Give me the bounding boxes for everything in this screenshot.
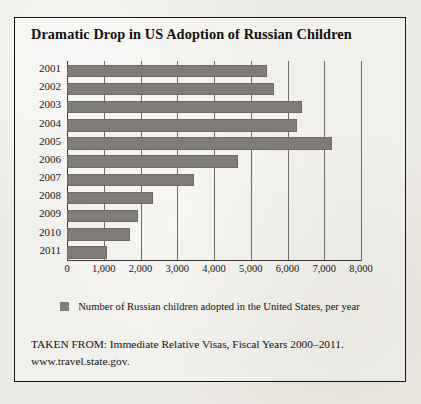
x-tick-label: 8,000 — [349, 263, 373, 274]
y-axis-label-2003: 2003 — [39, 98, 61, 110]
bar-row: 2004 — [67, 116, 361, 134]
bar-row: 2002 — [67, 79, 361, 97]
legend: Number of Russian children adopted in th… — [15, 301, 405, 312]
y-axis-label-2008: 2008 — [39, 189, 61, 201]
y-axis-label-2007: 2007 — [39, 171, 61, 183]
x-tick-label: 3,000 — [165, 263, 189, 274]
y-axis-label-2006: 2006 — [39, 153, 61, 165]
bar-row: 2006 — [67, 152, 361, 170]
y-axis-label-2011: 2011 — [39, 244, 61, 256]
bar-2001 — [67, 65, 267, 78]
bar-2004 — [67, 119, 297, 132]
bar-row: 2009 — [67, 206, 361, 224]
bar-row: 2008 — [67, 188, 361, 206]
gridline-8000 — [361, 61, 362, 261]
x-tick-label: 4,000 — [202, 263, 226, 274]
bar-2002 — [67, 83, 274, 96]
legend-swatch-icon — [60, 302, 69, 311]
bar-2005 — [67, 137, 332, 150]
bar-2008 — [67, 192, 153, 205]
bar-row: 2003 — [67, 97, 361, 115]
source-line-2: www.travel.state.gov. — [31, 353, 344, 370]
y-axis-label-2002: 2002 — [39, 80, 61, 92]
figure-page: Dramatic Drop in US Adoption of Russian … — [0, 0, 421, 404]
y-axis-label-2010: 2010 — [39, 226, 61, 238]
bar-2009 — [67, 210, 138, 223]
x-axis-line — [67, 260, 361, 261]
x-tick-label: 6,000 — [276, 263, 300, 274]
x-tick-label: 2,000 — [129, 263, 153, 274]
bar-2003 — [67, 101, 302, 114]
bar-2007 — [67, 174, 194, 187]
bar-row: 2007 — [67, 170, 361, 188]
bar-2006 — [67, 155, 238, 168]
y-axis-label-2009: 2009 — [39, 207, 61, 219]
y-axis-label-2001: 2001 — [39, 62, 61, 74]
chart-title: Dramatic Drop in US Adoption of Russian … — [31, 26, 352, 43]
y-axis-label-2004: 2004 — [39, 117, 61, 129]
x-tick-label: 7,000 — [312, 263, 336, 274]
bar-2010 — [67, 228, 130, 241]
bar-row: 2011 — [67, 243, 361, 261]
plot-area: 2001200220032004200520062007200820092010… — [67, 61, 361, 261]
bar-2011 — [67, 246, 107, 259]
legend-label: Number of Russian children adopted in th… — [78, 301, 360, 312]
y-axis-label-2005: 2005 — [39, 135, 61, 147]
chart-frame: Dramatic Drop in US Adoption of Russian … — [14, 17, 406, 382]
x-tick-label: 1,000 — [92, 263, 116, 274]
x-tick-label: 0 — [64, 263, 69, 274]
source-line-1: TAKEN FROM: Immediate Relative Visas, Fi… — [31, 336, 344, 353]
x-tick-label: 5,000 — [239, 263, 263, 274]
source-note: TAKEN FROM: Immediate Relative Visas, Fi… — [31, 336, 344, 369]
bar-row: 2010 — [67, 225, 361, 243]
bar-row: 2005 — [67, 134, 361, 152]
bar-row: 2001 — [67, 61, 361, 79]
